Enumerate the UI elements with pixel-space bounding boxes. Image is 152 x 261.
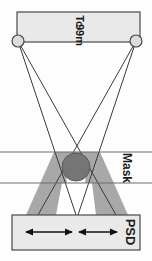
source-label-line2: 99m [74,24,86,46]
source-bar-group: Tc- 99m [17,12,140,46]
figure-root: Tc- 99m Mask PS [0,0,152,261]
mask-label: Mask [120,153,134,183]
detector-label: PSD [123,219,138,246]
mask-absorber-circle [62,153,90,181]
right-source-marker [130,35,142,47]
left-source-marker [12,35,24,47]
coded-mask-diagram: Tc- 99m Mask PS [0,0,152,261]
detector-group: PSD [12,215,140,250]
